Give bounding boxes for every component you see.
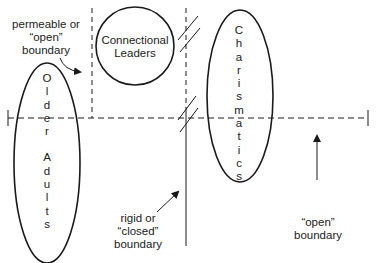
- rigid-boundary-annotation: rigid or “closed” boundary: [104, 212, 172, 251]
- break-mark-top-1: [178, 16, 198, 40]
- break-mark-bottom-1: [178, 96, 196, 120]
- open-boundary-annotation: “open” boundary: [290, 216, 346, 242]
- charismatics-label: C h a r i s m a t i c s: [232, 24, 246, 184]
- break-mark-top-2: [180, 28, 200, 52]
- older-adults-label: O l d e r A d u l t s: [40, 72, 54, 231]
- connectional-leaders-line2: Leaders: [96, 47, 174, 60]
- break-mark-bottom-2: [180, 108, 198, 132]
- connectional-leaders-line1: Connectional: [96, 34, 174, 47]
- connectional-leaders-label: Connectional Leaders: [96, 34, 174, 60]
- permeable-arrow: [60, 58, 80, 72]
- rigid-arrow: [157, 192, 178, 212]
- permeable-boundary-annotation: permeable or “open” boundary: [6, 18, 86, 57]
